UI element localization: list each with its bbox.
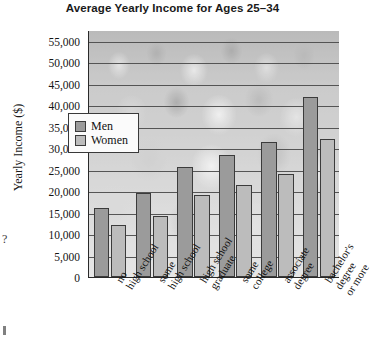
bar-women xyxy=(320,139,336,277)
x-axis-tick-labels: nohigh schoolsomehigh schoolhigh schoolg… xyxy=(88,279,339,346)
legend-label: Women xyxy=(91,134,128,146)
y-axis-tick-labels: 05,00010,00015,00020,00025,00030,00035,0… xyxy=(0,0,86,346)
y-tick-label: 40,000 xyxy=(48,100,80,112)
y-tick-label: 20,000 xyxy=(48,186,80,198)
y-tick-label: 15,000 xyxy=(48,208,80,220)
legend-item-women: Women xyxy=(75,134,128,146)
legend-swatch-icon xyxy=(75,135,86,146)
y-tick-label: 10,000 xyxy=(48,229,80,241)
bar-group xyxy=(89,31,339,277)
y-tick-label: 5,000 xyxy=(54,251,80,263)
y-tick-label: 45,000 xyxy=(48,79,80,91)
y-tick-label: 50,000 xyxy=(48,57,80,69)
legend-label: Men xyxy=(91,120,113,132)
bar-men xyxy=(94,208,110,277)
y-tick-label: 55,000 xyxy=(48,36,80,48)
plot-area xyxy=(88,31,339,278)
y-tick-label: 0 xyxy=(74,272,80,284)
y-tick-label: 25,000 xyxy=(48,165,80,177)
legend-swatch-icon xyxy=(75,121,86,132)
legend-item-men: Men xyxy=(75,120,128,132)
legend: MenWomen xyxy=(68,113,139,153)
